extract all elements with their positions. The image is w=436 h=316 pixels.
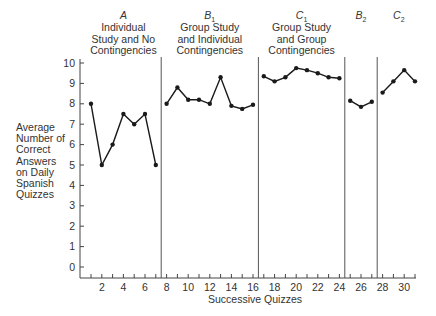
data-point (208, 102, 212, 106)
data-point (391, 79, 395, 83)
y-tick-label: 2 (69, 220, 75, 232)
x-tick-label: 8 (164, 281, 170, 293)
phase-letter: A (119, 9, 127, 21)
phase-dividers (161, 57, 377, 278)
data-point (370, 100, 374, 104)
phase-labels: AIndividualStudy and NoContingenciesB1Gr… (90, 9, 405, 56)
series-c2 (380, 68, 417, 95)
data-point (305, 68, 309, 72)
y-tick-label: 1 (69, 240, 75, 252)
x-tick-label: 16 (247, 281, 259, 293)
series-line (383, 70, 415, 93)
y-tick-label: 7 (69, 118, 75, 130)
y-label-line: Answers (16, 155, 56, 167)
y-tick-label: 10 (63, 57, 75, 69)
data-point (164, 102, 168, 106)
x-tick-label: 20 (290, 281, 302, 293)
x-tick-label: 12 (204, 281, 216, 293)
phase-description: Contingencies (177, 44, 244, 56)
y-label-line: Number of (16, 132, 65, 144)
y-tick-label: 0 (69, 261, 75, 273)
x-tick-label: 6 (142, 281, 148, 293)
phase-label-b2: B2 (356, 9, 367, 23)
data-point (121, 112, 125, 116)
y-label-line: Quizzes (16, 188, 54, 200)
data-point (326, 75, 330, 79)
x-tick-label: 18 (269, 281, 281, 293)
data-point (283, 75, 287, 79)
data-point (154, 163, 158, 167)
x-tick-label: 4 (120, 281, 126, 293)
y-tick-label: 8 (69, 97, 75, 109)
data-point (316, 71, 320, 75)
phase-description: and Group (277, 33, 327, 45)
x-tick-label: 26 (355, 281, 367, 293)
phase-description: Individual (101, 21, 145, 33)
y-label-line: Average (16, 121, 55, 133)
data-point (143, 112, 147, 116)
y-axis-label: AverageNumber ofCorrectAnswerson DailySp… (16, 121, 65, 200)
y-tick-label: 9 (69, 77, 75, 89)
x-tick-label: 28 (377, 281, 389, 293)
phase-label-c2: C2 (393, 9, 405, 23)
y-tick-label: 4 (69, 179, 75, 191)
x-tick-label: 22 (312, 281, 324, 293)
data-point (110, 142, 114, 146)
phase-description: Group Study (272, 21, 332, 33)
x-tick-label: 24 (334, 281, 346, 293)
data-point (100, 163, 104, 167)
phase-description: and Individual (177, 33, 242, 45)
data-point (413, 79, 417, 83)
phase-label-c1: C1Group Studyand GroupContingencies (268, 9, 335, 56)
data-point (262, 74, 266, 78)
data-point (197, 98, 201, 102)
series-b1 (164, 75, 255, 111)
data-point (348, 99, 352, 103)
y-tick-label: 6 (69, 138, 75, 150)
y-axis: 012345678910 (63, 57, 84, 279)
y-label-line: Spanish (16, 177, 54, 189)
data-point (294, 66, 298, 70)
x-tick-label: 14 (226, 281, 238, 293)
phase-description: Group Study (180, 21, 240, 33)
data-point (89, 102, 93, 106)
phase-letter: C2 (393, 9, 405, 23)
phase-description: Study and No (92, 33, 156, 45)
data-point (251, 103, 255, 107)
phase-label-a: AIndividualStudy and NoContingencies (90, 9, 157, 56)
phase-description: Contingencies (90, 44, 157, 56)
data-point (240, 107, 244, 111)
data-point (402, 68, 406, 72)
line-chart: AIndividualStudy and NoContingenciesB1Gr… (0, 0, 436, 316)
y-tick-label: 5 (69, 159, 75, 171)
x-axis: 24681012141618202224262830 (80, 274, 416, 293)
data-point (218, 75, 222, 79)
y-tick-label: 3 (69, 199, 75, 211)
data-point (359, 105, 363, 109)
x-tick-label: 2 (99, 281, 105, 293)
x-axis-label: Successive Quizzes (208, 293, 302, 305)
data-point (380, 90, 384, 94)
data-point (337, 76, 341, 80)
data-series (89, 66, 417, 167)
series-a (89, 102, 158, 168)
phase-description: Contingencies (268, 44, 335, 56)
data-point (229, 104, 233, 108)
data-point (132, 122, 136, 126)
x-tick-label: 10 (182, 281, 194, 293)
y-label-line: Correct (16, 143, 51, 155)
phase-letter: B2 (356, 9, 367, 23)
data-point (186, 98, 190, 102)
y-label-line: on Daily (16, 166, 55, 178)
phase-label-b1: B1Group Studyand IndividualContingencies (177, 9, 244, 56)
data-point (175, 85, 179, 89)
series-c1 (262, 66, 342, 84)
data-point (272, 79, 276, 83)
x-tick-label: 30 (398, 281, 410, 293)
series-b2 (348, 99, 374, 110)
